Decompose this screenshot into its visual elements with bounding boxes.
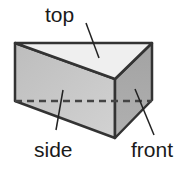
- front-label: front: [131, 139, 173, 160]
- side-label: side: [34, 139, 73, 160]
- top-label: top: [45, 4, 74, 25]
